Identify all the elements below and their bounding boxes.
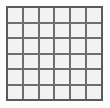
grid-cell — [40, 86, 54, 100]
grid-cell — [87, 39, 101, 53]
grid-cell — [8, 8, 22, 22]
grid-cell — [24, 86, 38, 100]
grid-cell — [87, 24, 101, 38]
grid-cell — [71, 55, 85, 69]
grid-cell — [40, 24, 54, 38]
grid-cell — [87, 8, 101, 22]
grid-cell — [8, 55, 22, 69]
grid-cell — [8, 70, 22, 84]
grid-cell — [55, 8, 69, 22]
grid-cell — [71, 8, 85, 22]
grid-cell — [40, 8, 54, 22]
grid-cell — [8, 86, 22, 100]
grid-cell — [71, 39, 85, 53]
grid-cell — [24, 70, 38, 84]
grid-cell — [87, 70, 101, 84]
grid-cell — [71, 86, 85, 100]
grid-cell — [8, 24, 22, 38]
grid-figure — [6, 6, 103, 101]
grid-cell — [55, 86, 69, 100]
grid-cell — [55, 39, 69, 53]
grid-cell — [87, 55, 101, 69]
canvas — [0, 0, 110, 108]
grid-cell — [8, 39, 22, 53]
grid-cell — [40, 39, 54, 53]
grid-cell — [24, 55, 38, 69]
grid-cell — [24, 24, 38, 38]
grid-cell — [24, 8, 38, 22]
grid-cell — [55, 70, 69, 84]
grid-cell — [55, 24, 69, 38]
grid-cell — [55, 55, 69, 69]
grid-cell — [71, 70, 85, 84]
grid-cell — [71, 24, 85, 38]
grid-cell — [40, 55, 54, 69]
grid-cell — [24, 39, 38, 53]
grid-cell — [87, 86, 101, 100]
grid-cell — [40, 70, 54, 84]
